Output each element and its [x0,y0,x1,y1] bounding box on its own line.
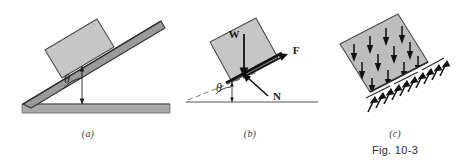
ground-slab [22,104,170,113]
normal-vector-label: N [273,90,281,102]
panel-a-illustration: θ [0,0,176,128]
panel-c: (c) [324,0,466,164]
panel-a: θ (a) [0,0,176,164]
figure-10-3: θ (a) θ [0,0,466,164]
panel-c-illustration [324,0,466,128]
panel-a-caption: (a) [0,128,176,139]
panel-b: θ W F N [176,0,324,164]
panel-b-illustration: θ W F N [176,0,324,128]
panel-c-caption: (c) [324,128,466,139]
normal-vector [242,72,268,96]
friction-vector-label: F [293,44,300,56]
figure-number-label: Fig. 10-3 [324,144,466,156]
weight-vector-label: W [229,28,240,40]
block-on-incline [45,19,114,78]
theta-label-a: θ [64,72,70,86]
theta-label-b: θ [216,81,222,95]
panel-b-caption: (b) [176,128,324,139]
